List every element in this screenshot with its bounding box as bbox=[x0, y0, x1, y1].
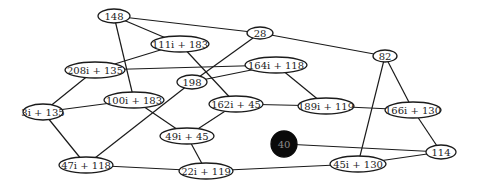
node-label: 189i + 119 bbox=[298, 101, 354, 112]
graph-node: 162i + 45 bbox=[209, 96, 263, 112]
graph-node: 189i + 119 bbox=[298, 98, 354, 114]
node-label: 47i + 118 bbox=[61, 160, 111, 171]
graph-node: 28 bbox=[247, 27, 273, 39]
node-label: 49i + 45 bbox=[165, 131, 208, 142]
edge-n148-n100 bbox=[114, 16, 134, 100]
node-label: 82 bbox=[379, 51, 392, 62]
edge-n148-n28 bbox=[114, 16, 260, 33]
graph-node: 100i + 183 bbox=[104, 92, 164, 108]
node-label: 3i + 135 bbox=[21, 107, 64, 118]
node-label: 28 bbox=[254, 28, 267, 39]
graph-node: 40 bbox=[271, 131, 297, 157]
graph-node: 164i + 118 bbox=[245, 57, 307, 73]
node-label: 45i + 130 bbox=[333, 159, 383, 170]
graph-node: 22i + 119 bbox=[179, 163, 233, 179]
graph-node: 166i + 130 bbox=[385, 102, 441, 118]
nodes-layer: 148111i + 1832882208i + 135164i + 118198… bbox=[21, 9, 456, 179]
node-label: 111i + 183 bbox=[152, 39, 208, 50]
edge-n111-n162 bbox=[180, 44, 236, 104]
graph-node: 148 bbox=[98, 9, 130, 23]
node-label: 162i + 45 bbox=[211, 99, 261, 110]
graph-node: 47i + 118 bbox=[59, 157, 113, 173]
node-label: 198 bbox=[182, 77, 201, 88]
graph-node: 49i + 45 bbox=[160, 128, 214, 144]
graph-node: 198 bbox=[177, 75, 207, 89]
graph-node: 45i + 130 bbox=[330, 156, 386, 172]
edges-layer bbox=[43, 16, 441, 171]
graph-node: 114 bbox=[426, 145, 456, 159]
graph-node: 3i + 135 bbox=[21, 104, 64, 120]
node-label: 166i + 130 bbox=[385, 105, 441, 116]
node-label: 208i + 135 bbox=[67, 65, 123, 76]
graph-node: 82 bbox=[373, 50, 397, 62]
node-label: 164i + 118 bbox=[248, 60, 304, 71]
graph-node: 111i + 183 bbox=[151, 36, 209, 52]
node-label: 40 bbox=[278, 139, 291, 150]
node-label: 114 bbox=[431, 147, 450, 158]
node-label: 22i + 119 bbox=[181, 166, 231, 177]
edge-n28-n82 bbox=[260, 33, 385, 56]
node-label: 148 bbox=[104, 11, 123, 22]
graph-diagram: 148111i + 1832882208i + 135164i + 118198… bbox=[0, 0, 479, 187]
graph-node: 208i + 135 bbox=[65, 62, 125, 78]
node-label: 100i + 183 bbox=[106, 95, 162, 106]
